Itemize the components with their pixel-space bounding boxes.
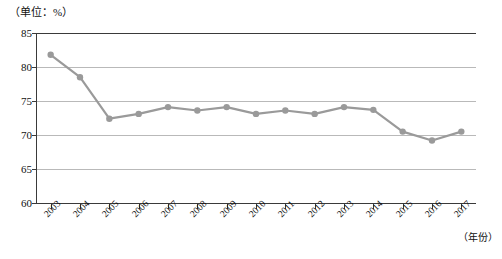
y-axis-unit-label: （单位：%）: [9, 6, 73, 19]
y-tick-label-85: 85: [4, 28, 32, 39]
y-axis-ticks: 606570758085: [0, 33, 32, 204]
y-tick-label-70: 70: [4, 130, 32, 141]
gridline-70: [36, 135, 476, 136]
plot-area: [36, 33, 476, 203]
gridline-80: [36, 67, 476, 68]
x-axis-tick-labels: 2003200420052006200720082009201020112012…: [36, 212, 477, 252]
y-tick-label-60: 60: [4, 198, 32, 209]
gridline-85: [36, 33, 476, 34]
y-tick-label-75: 75: [4, 96, 32, 107]
y-tick-label-65: 65: [4, 164, 32, 175]
x-axis-title: （年份）: [458, 232, 498, 243]
y-axis-line: [36, 33, 37, 204]
line-chart: （单位：%） 606570758085 20032004200520062007…: [0, 0, 502, 259]
y-tick-label-80: 80: [4, 62, 32, 73]
gridline-75: [36, 101, 476, 102]
gridline-65: [36, 169, 476, 170]
